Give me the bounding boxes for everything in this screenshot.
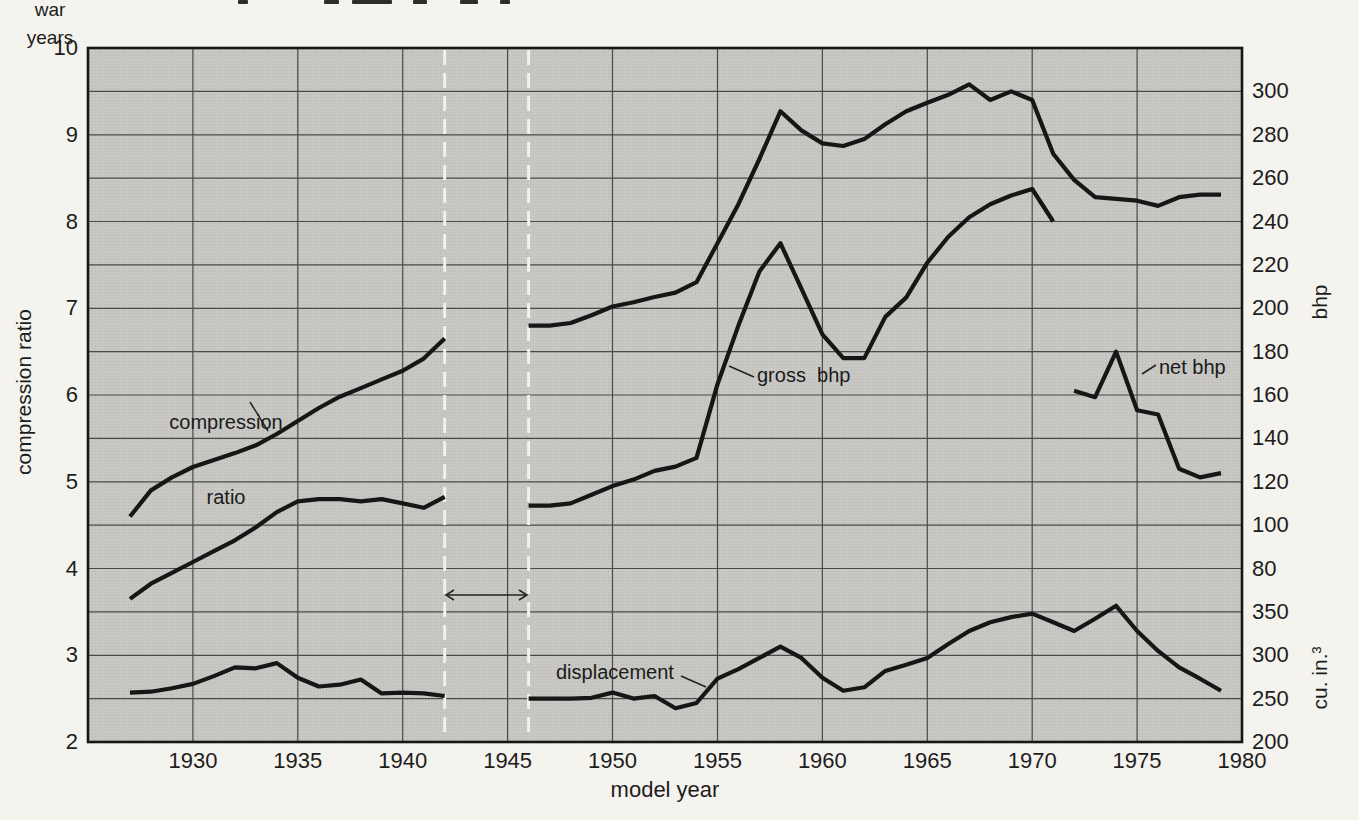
year-axis-tick: 1940 bbox=[363, 748, 443, 774]
year-axis-tick: 1955 bbox=[677, 748, 757, 774]
bhp-axis-tick: 140 bbox=[1252, 425, 1289, 451]
bhp-axis-tick: 260 bbox=[1252, 165, 1289, 191]
year-axis-tick: 1930 bbox=[153, 748, 233, 774]
cuin-axis-tick: 350 bbox=[1252, 599, 1289, 625]
year-axis-tick: 1970 bbox=[992, 748, 1072, 774]
bhp-axis-tick: 280 bbox=[1252, 122, 1289, 148]
bhp-axis-tick: 300 bbox=[1252, 78, 1289, 104]
caption-mark bbox=[500, 0, 510, 4]
compression-axis-tick: 7 bbox=[30, 295, 78, 321]
compression-axis-tick: 10 bbox=[30, 35, 78, 61]
caption-mark bbox=[238, 0, 248, 4]
net-bhp-annotation: net bhp bbox=[1159, 356, 1226, 379]
caption-mark bbox=[352, 0, 392, 4]
compression-axis-tick: 2 bbox=[30, 729, 78, 755]
caption-mark bbox=[324, 0, 339, 4]
cuin-axis-tick: 300 bbox=[1252, 642, 1289, 668]
year-axis-tick: 1945 bbox=[468, 748, 548, 774]
bhp-axis-tick: 120 bbox=[1252, 469, 1289, 495]
compression-axis-tick: 5 bbox=[30, 469, 78, 495]
year-axis-tick: 1960 bbox=[782, 748, 862, 774]
x-axis-title: model year bbox=[565, 777, 765, 803]
bhp-axis-tick: 100 bbox=[1252, 512, 1289, 538]
compression-ratio-annotation: compression ratio bbox=[152, 360, 300, 560]
bhp-axis-tick: 80 bbox=[1252, 556, 1276, 582]
cuin-axis-tick: 250 bbox=[1252, 686, 1289, 712]
bhp-axis-tick: 160 bbox=[1252, 382, 1289, 408]
year-axis-tick: 1950 bbox=[573, 748, 653, 774]
year-axis-tick: 1965 bbox=[887, 748, 967, 774]
caption-mark bbox=[413, 0, 427, 4]
bhp-axis-tick: 220 bbox=[1252, 252, 1289, 278]
bhp-axis-title: bhp bbox=[1307, 192, 1333, 412]
year-axis-tick: 1980 bbox=[1202, 748, 1282, 774]
bhp-axis-tick: 180 bbox=[1252, 339, 1289, 365]
compression-axis-tick: 4 bbox=[30, 556, 78, 582]
year-axis-tick: 1975 bbox=[1097, 748, 1177, 774]
compression-axis-tick: 6 bbox=[30, 382, 78, 408]
compression-axis-tick: 3 bbox=[30, 642, 78, 668]
displacement-annotation: displacement bbox=[556, 661, 674, 684]
gross-bhp-annotation: gross bhp bbox=[757, 364, 850, 387]
caption-mark bbox=[460, 0, 478, 4]
bhp-axis-tick: 240 bbox=[1252, 209, 1289, 235]
compression-annotation-line2: ratio bbox=[152, 485, 300, 510]
cuin-axis-title: cu. in.³ bbox=[1307, 568, 1333, 788]
compression-axis-tick: 8 bbox=[30, 209, 78, 235]
war-annotation-line1: war bbox=[0, 0, 100, 19]
year-axis-tick: 1935 bbox=[258, 748, 338, 774]
engine-trends-figure: compression ratio bhp cu. in.³ model yea… bbox=[0, 0, 1359, 820]
compression-axis-tick: 9 bbox=[30, 122, 78, 148]
bhp-axis-tick: 200 bbox=[1252, 295, 1289, 321]
compression-annotation-line1: compression bbox=[152, 410, 300, 435]
